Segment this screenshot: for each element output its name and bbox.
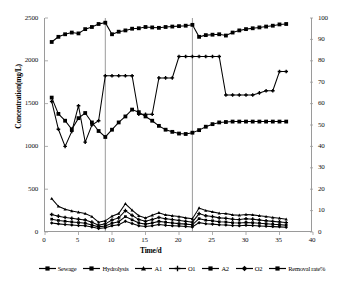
data-point-marker xyxy=(217,121,221,125)
data-point-marker xyxy=(204,55,208,59)
data-point-marker xyxy=(57,222,61,226)
data-point-marker xyxy=(264,120,268,124)
data-point-marker xyxy=(224,93,228,97)
data-point-marker xyxy=(77,32,81,36)
series-line xyxy=(52,23,287,42)
data-point-marker xyxy=(171,222,174,225)
data-point-marker xyxy=(258,218,262,222)
data-point-marker xyxy=(271,120,275,124)
data-point-marker xyxy=(244,93,248,97)
data-point-marker xyxy=(117,220,120,223)
data-point-marker xyxy=(70,31,74,35)
data-point-marker xyxy=(170,218,174,222)
data-point-marker xyxy=(231,224,235,228)
data-point-marker xyxy=(177,55,181,59)
legend-item-o2[interactable]: O2 xyxy=(236,264,262,273)
data-point-marker xyxy=(184,219,188,223)
legend-item-a1[interactable]: A1 xyxy=(135,264,161,273)
data-point-marker xyxy=(77,104,81,108)
x-tick-label: 30 xyxy=(235,237,255,244)
legend-marker-plus-icon xyxy=(169,264,186,273)
data-point-marker xyxy=(164,25,168,29)
data-point-marker xyxy=(110,74,114,78)
legend-marker-square-icon xyxy=(39,264,56,273)
data-point-marker xyxy=(197,55,201,59)
x-tick-label: 25 xyxy=(202,237,222,244)
data-point-marker xyxy=(244,217,248,221)
data-point-marker xyxy=(137,224,141,228)
x-tick-label: 35 xyxy=(269,237,289,244)
data-point-marker xyxy=(204,33,208,37)
data-point-marker xyxy=(278,70,282,74)
data-point-marker xyxy=(130,27,134,31)
legend-item-sewage[interactable]: Sewage xyxy=(39,264,77,273)
data-point-marker xyxy=(191,131,195,135)
data-point-marker xyxy=(110,128,114,132)
data-point-marker xyxy=(90,220,94,224)
legend-item-label: O1 xyxy=(188,265,195,272)
data-point-marker xyxy=(151,222,154,225)
data-point-marker xyxy=(130,74,134,78)
data-point-marker xyxy=(63,145,67,149)
data-point-marker xyxy=(157,76,161,80)
data-point-marker xyxy=(57,127,61,131)
data-point-marker xyxy=(264,89,268,93)
data-point-marker xyxy=(83,140,87,144)
data-point-marker xyxy=(218,220,221,223)
data-point-marker xyxy=(90,266,94,270)
y-tick-label: 500 xyxy=(6,186,38,193)
y2-tick-label: 60 xyxy=(318,100,342,107)
chart-root: 05001000150020002500 0102030405060708090… xyxy=(0,0,364,291)
data-point-marker xyxy=(264,219,268,223)
series-sewage xyxy=(50,21,288,44)
legend-item-label: Removal rate% xyxy=(288,265,325,272)
data-point-marker xyxy=(103,135,107,139)
data-point-marker xyxy=(184,132,188,136)
data-point-marker xyxy=(103,21,107,25)
data-point-marker xyxy=(50,197,53,200)
data-point-marker xyxy=(164,221,167,224)
data-point-marker xyxy=(177,219,181,223)
data-point-marker xyxy=(204,214,208,218)
data-point-marker xyxy=(157,223,161,227)
data-point-marker xyxy=(191,55,195,59)
data-point-marker xyxy=(164,217,168,221)
data-point-marker xyxy=(103,74,107,78)
data-point-marker xyxy=(63,32,67,36)
x-tick-label: 10 xyxy=(101,237,121,244)
y2-tick-label: 20 xyxy=(318,186,342,193)
data-point-marker xyxy=(158,220,161,223)
y2-tick-label: 50 xyxy=(318,122,342,129)
data-point-marker xyxy=(224,216,228,220)
x-axis-title: Time/d xyxy=(140,246,162,255)
legend-item-removal-rate[interactable]: Removal rate% xyxy=(269,264,325,273)
y-axis-title: Concentration(mg/L) xyxy=(14,27,23,167)
data-point-marker xyxy=(251,26,255,30)
data-point-marker xyxy=(197,128,201,132)
legend-item-a2[interactable]: A2 xyxy=(202,264,228,273)
data-point-marker xyxy=(271,220,275,224)
data-point-marker xyxy=(131,218,134,221)
data-point-marker xyxy=(83,218,87,222)
y2-tick-label: 0 xyxy=(318,229,342,236)
legend-item-o1[interactable]: O1 xyxy=(169,264,195,273)
data-point-marker xyxy=(150,112,154,116)
series-removal-rate xyxy=(50,55,288,149)
data-point-marker xyxy=(130,108,134,112)
data-point-marker xyxy=(150,26,154,30)
y-tick-label: 2500 xyxy=(6,15,38,22)
data-point-marker xyxy=(157,216,161,220)
y2-tick-label: 90 xyxy=(318,36,342,43)
y2-tick-label: 40 xyxy=(318,143,342,150)
data-point-marker xyxy=(231,93,235,97)
data-point-marker xyxy=(251,120,255,124)
data-point-marker xyxy=(57,214,61,218)
legend-item-label: Sewage xyxy=(58,265,77,272)
data-point-marker xyxy=(170,130,174,134)
data-point-marker xyxy=(284,70,288,74)
data-point-marker xyxy=(144,219,148,223)
data-point-marker xyxy=(117,74,121,78)
legend-item-hydrolysis[interactable]: Hydrolysis xyxy=(83,264,128,273)
data-point-marker xyxy=(258,120,262,124)
legend-item-label: A1 xyxy=(154,265,161,272)
